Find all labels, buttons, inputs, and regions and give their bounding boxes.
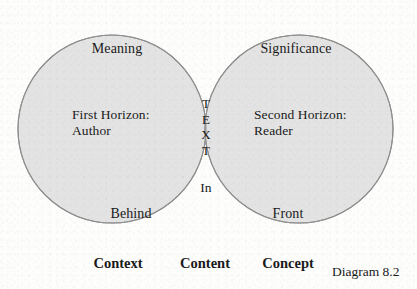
intersection-stacked-label: TEXT [201,96,211,158]
right-circle-middle-label: Second Horizon: Reader [254,107,347,140]
left-circle-top-label: Meaning [92,40,142,57]
caption-content: Content [180,255,230,272]
intersection-letter-2: X [201,127,211,143]
caption-concept: Concept [262,255,314,272]
left-circle-bottom-label: Behind [110,205,151,222]
intersection-letter-3: T [201,143,211,159]
caption-context: Context [93,255,142,272]
intersection-letter-1: E [201,112,211,128]
right-circle-top-label: Significance [260,40,331,57]
figure-caption: Diagram 8.2 [332,264,399,280]
intersection-bottom-label: In [200,180,211,196]
left-circle-middle-label: First Horizon: Author [72,107,150,140]
right-circle-bottom-label: Front [273,205,304,222]
intersection-letter-0: T [201,96,211,112]
diagram-canvas: Meaning First Horizon: Author Behind Sig… [0,0,417,289]
